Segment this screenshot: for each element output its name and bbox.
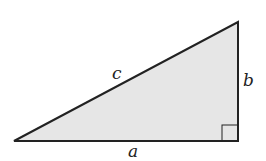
hypotenuse-label: c	[112, 63, 122, 83]
right-triangle-diagram: c b a	[0, 0, 266, 161]
triangle-shape	[14, 22, 238, 141]
vertical-leg-label: b	[243, 70, 254, 90]
horizontal-leg-label: a	[128, 141, 138, 161]
